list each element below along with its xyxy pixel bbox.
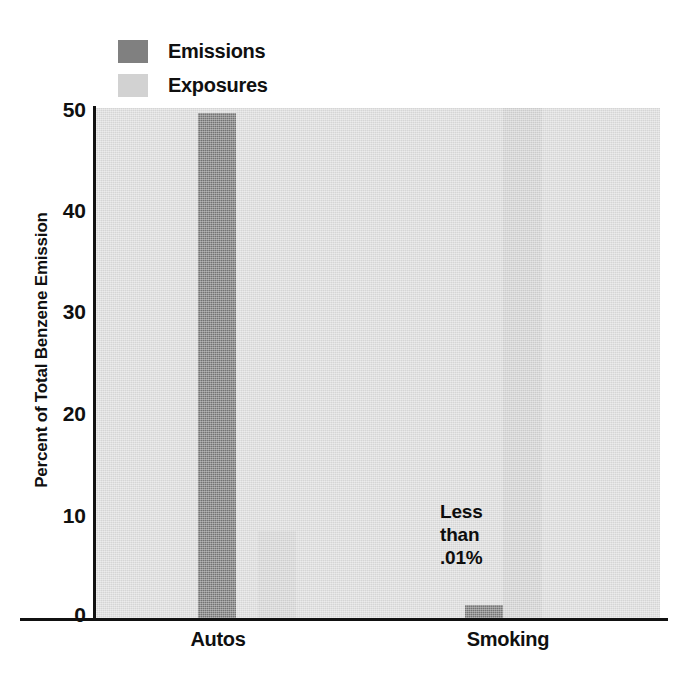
annotation-line-1: Less (440, 500, 518, 523)
legend-label-exposures: Exposures (168, 75, 268, 95)
plot-area (96, 108, 660, 618)
annotation-line-2: than (440, 523, 518, 546)
x-category-label-smoking: Smoking (443, 628, 573, 651)
y-tick-label-0: 0 (38, 604, 86, 625)
legend-swatch-emissions (118, 40, 148, 63)
bar-autos-emissions (198, 113, 236, 618)
legend-item-emissions: Emissions (118, 36, 358, 66)
chart-legend: Emissions Exposures (118, 36, 358, 104)
legend-item-exposures: Exposures (118, 70, 358, 100)
y-tick-label-50: 50 (38, 99, 86, 120)
y-tick-label-30: 30 (38, 301, 86, 322)
legend-label-emissions: Emissions (168, 41, 265, 61)
annotation-line-3: .01% (440, 546, 518, 569)
annotation-less-than: Less than .01% (440, 500, 518, 570)
y-tick-label-20: 20 (38, 403, 86, 424)
benzene-emissions-chart: Emissions Exposures Percent of Total Ben… (0, 0, 686, 678)
y-tick-label-10: 10 (38, 505, 86, 526)
legend-swatch-exposures (118, 74, 148, 97)
y-axis-line (93, 106, 96, 620)
y-tick-label-40: 40 (38, 200, 86, 221)
x-category-label-autos: Autos (158, 628, 278, 651)
bar-autos-exposures (258, 531, 296, 618)
bar-smoking-emissions (465, 605, 503, 618)
x-axis-line (20, 618, 668, 621)
